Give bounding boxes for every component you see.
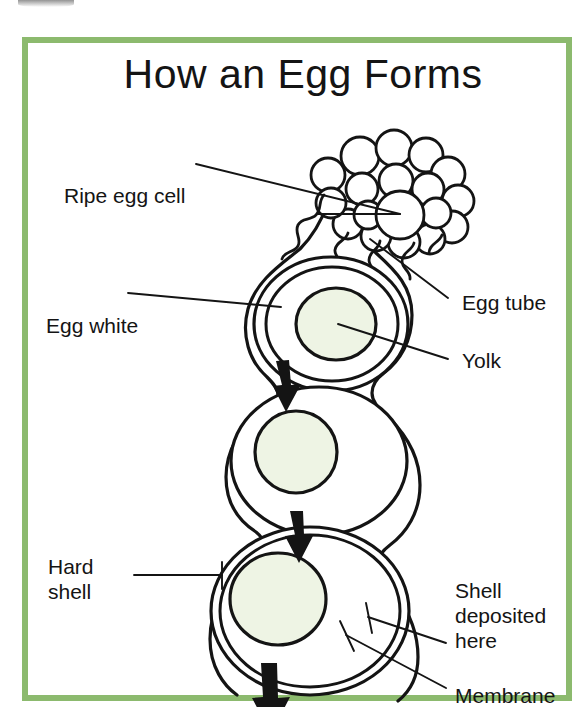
middle-yolk [255,411,337,493]
label-membrane: Membrane [455,683,555,708]
label-egg-tube: Egg tube [462,290,546,315]
lower-yolk [230,553,326,645]
chamber-lower [211,527,409,695]
label-shell-deposited-here: Shell deposited here [455,578,546,653]
label-yolk: Yolk [462,348,501,373]
label-hard-shell: Hard shell [48,554,94,604]
figure-frame: How an Egg Forms [22,37,572,701]
chamber-middle [231,387,407,535]
scan-artifact [18,0,74,7]
upper-yolk [296,288,376,360]
ripe-egg-cell-cluster [311,130,474,258]
chamber-upper [254,257,408,391]
label-egg-white: Egg white [46,313,138,338]
label-ripe-egg-cell: Ripe egg cell [64,183,185,208]
